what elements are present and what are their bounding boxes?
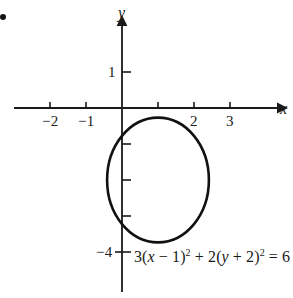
y-axis-label: y: [118, 5, 125, 21]
equation-x-shift: − 1): [155, 248, 186, 265]
y-tick-label-1: 1: [108, 65, 116, 80]
equation-var-y: y: [222, 248, 229, 265]
ellipse-graph-figure: −2 −1 2 3 1 −4 x y 3(x − 1)2 + 2(y + 2)2…: [0, 0, 293, 298]
equation-var-x: x: [148, 248, 155, 265]
x-tick-label-2: 2: [190, 114, 198, 129]
equation-coef-a: 3(: [134, 248, 148, 265]
equation-y-shift: + 2): [229, 248, 260, 265]
equation-equals: = 6: [265, 248, 290, 265]
equation-annotation: 3(x − 1)2 + 2(y + 2)2 = 6: [134, 249, 290, 265]
equation-plus: + 2(: [191, 248, 222, 265]
x-axis-label: x: [280, 101, 287, 117]
x-tick-label-minus1: −1: [78, 114, 94, 129]
x-tick-label-minus2: −2: [42, 114, 58, 129]
x-tick-label-3: 3: [226, 114, 234, 129]
y-tick-label-minus4: −4: [96, 245, 112, 260]
